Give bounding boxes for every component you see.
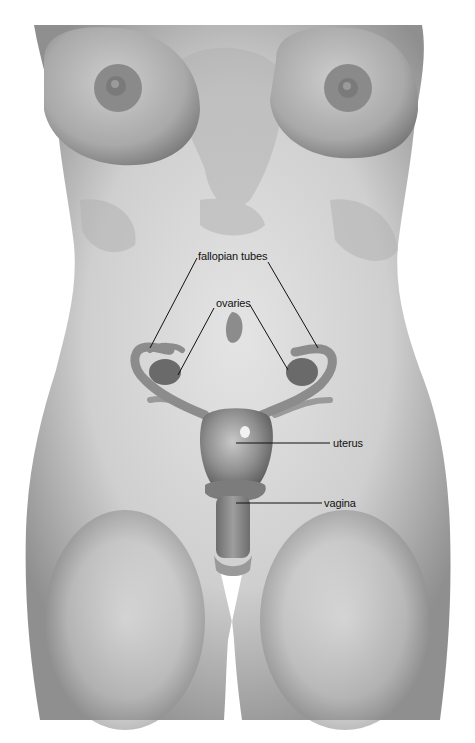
anatomy-diagram: fallopian tubes ovaries uterus vagina (0, 0, 475, 743)
label-vagina: vagina (324, 497, 356, 509)
torso-illustration (0, 0, 475, 743)
label-fallopian-tubes: fallopian tubes (198, 250, 267, 262)
label-uterus: uterus (333, 437, 363, 449)
right-ovary (286, 358, 318, 386)
vagina-shape (216, 496, 250, 558)
label-ovaries: ovaries (216, 297, 251, 309)
left-ovary (149, 359, 181, 385)
